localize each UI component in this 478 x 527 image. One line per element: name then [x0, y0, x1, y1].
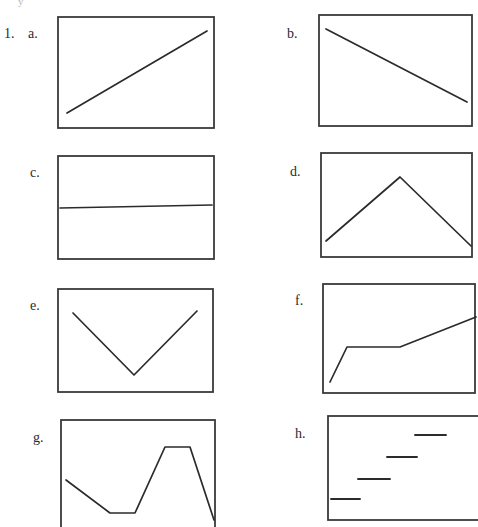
graph-h-frame: [328, 416, 478, 520]
graph-c-line: [60, 205, 212, 208]
graph-f-line: [330, 317, 476, 382]
graph-a-line: [67, 31, 207, 113]
graph-box-h: [327, 415, 478, 520]
graph-d-frame: [321, 153, 472, 257]
graph-b-svg: [318, 14, 473, 127]
graph-h-svg: [327, 415, 478, 520]
item-label-f: f.: [295, 294, 303, 308]
question-number: 1.: [4, 27, 15, 41]
graph-box-b: [318, 14, 473, 127]
graph-g-frame: [61, 420, 215, 527]
item-label-a: a.: [28, 27, 38, 41]
graph-box-a: [57, 16, 215, 129]
worksheet-page: y 1. a. b. c. d. e.: [0, 0, 478, 527]
graph-b-frame: [319, 15, 472, 126]
graph-e-line: [73, 311, 197, 375]
item-label-b: b.: [287, 27, 298, 41]
graph-box-g: [60, 419, 216, 527]
item-label-h: h.: [295, 427, 306, 441]
graph-g-line: [66, 447, 214, 520]
graph-box-f: [322, 283, 476, 394]
graph-f-svg: [322, 283, 476, 394]
graph-e-svg: [57, 288, 214, 393]
page-edge-artifact: y: [18, 0, 24, 7]
graph-d-line: [326, 177, 471, 246]
graph-c-svg: [57, 155, 215, 260]
item-label-c: c.: [30, 166, 40, 180]
graph-box-e: [57, 288, 214, 393]
graph-f-frame: [323, 284, 475, 393]
graph-a-svg: [57, 16, 215, 129]
graph-g-svg: [60, 419, 216, 527]
item-label-g: g.: [33, 431, 44, 445]
item-label-e: e.: [30, 299, 40, 313]
graph-box-c: [57, 155, 215, 260]
item-label-d: d.: [290, 165, 301, 179]
graph-b-line: [326, 29, 467, 102]
graph-box-d: [320, 152, 473, 258]
graph-d-svg: [320, 152, 473, 258]
graph-e-frame: [58, 289, 213, 392]
